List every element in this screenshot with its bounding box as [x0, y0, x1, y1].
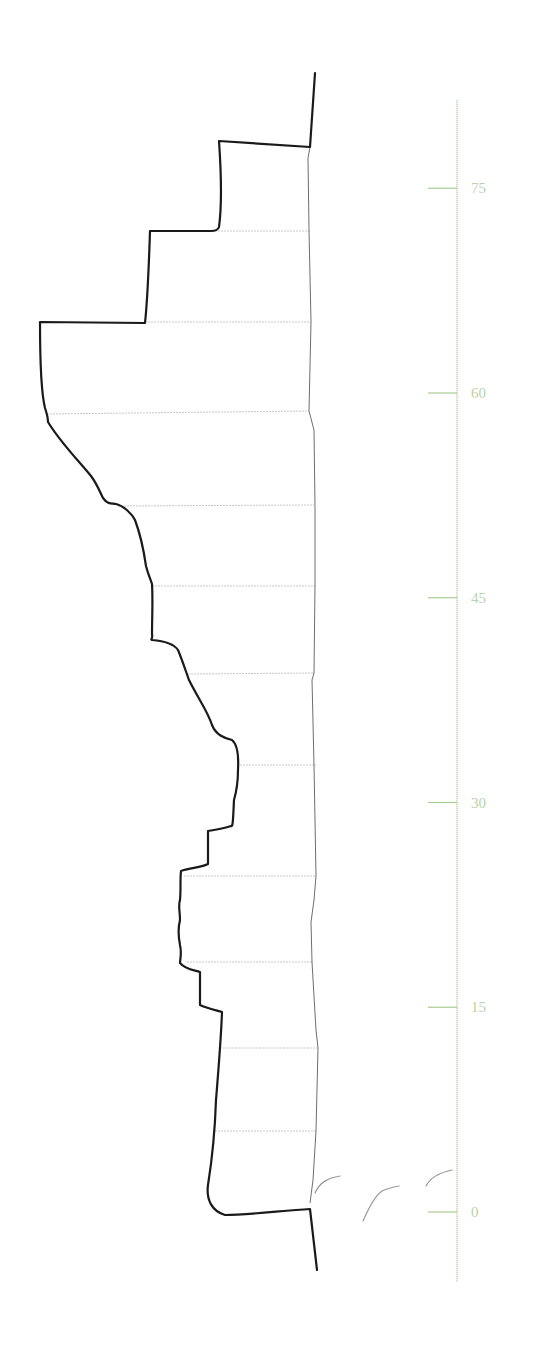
layer-lines: [47, 231, 318, 1131]
scale-label-30: 30: [471, 795, 486, 811]
outer-profile-line: [40, 73, 317, 1270]
scale-label-45: 45: [471, 590, 486, 606]
sketch-stroke-3: [426, 1170, 452, 1186]
sketch-stroke-1: [315, 1176, 340, 1193]
sketch-stroke-2: [363, 1186, 399, 1221]
scale-bar: 75604530150: [428, 100, 486, 1282]
faint-sketch-strokes: [315, 1170, 452, 1221]
inner-profile-line: [308, 147, 318, 1203]
scale-label-15: 15: [471, 999, 486, 1015]
profile-drawing: 75604530150: [0, 0, 539, 1372]
scale-label-75: 75: [471, 180, 486, 196]
scale-label-60: 60: [471, 385, 486, 401]
scale-label-0: 0: [471, 1204, 479, 1220]
